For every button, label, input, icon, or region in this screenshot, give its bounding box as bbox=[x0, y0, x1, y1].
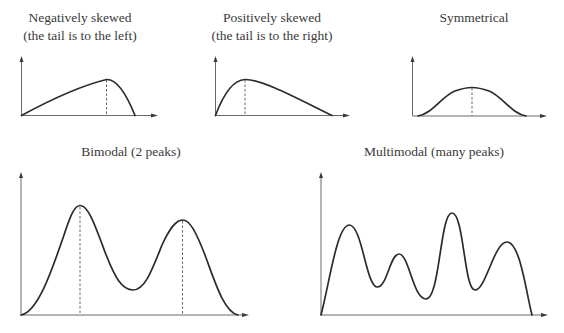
panel-title-line-2: (the tail is to the left) bbox=[23, 28, 137, 43]
panel-positively-skewed: Positively skewed (the tail is to the ri… bbox=[211, 10, 350, 118]
distribution-curve bbox=[21, 205, 238, 315]
distribution-curve bbox=[321, 213, 532, 315]
panel-title-line-2: (the tail is to the right) bbox=[211, 28, 332, 43]
panel-title-line-1: Symmetrical bbox=[440, 10, 509, 25]
panel-bimodal: Bimodal (2 peaks) bbox=[19, 144, 249, 317]
y-axis-arrow-icon bbox=[319, 172, 323, 178]
y-axis-arrow-icon bbox=[19, 172, 23, 178]
panel-multimodal: Multimodal (many peaks) bbox=[319, 144, 548, 317]
panel-symmetrical: Symmetrical bbox=[411, 10, 548, 118]
x-axis-arrow-icon bbox=[540, 114, 547, 118]
panel-negatively-skewed: Negatively skewed (the tail is to the le… bbox=[20, 10, 159, 118]
distribution-shapes-figure: Negatively skewed (the tail is to the le… bbox=[0, 0, 564, 333]
x-axis-arrow-icon bbox=[343, 114, 350, 118]
distribution-curve bbox=[216, 79, 333, 115]
panel-title-line-1: Positively skewed bbox=[223, 10, 321, 25]
panel-title: Bimodal (2 peaks) bbox=[81, 144, 181, 159]
y-axis-arrow-icon bbox=[411, 56, 415, 62]
x-axis-arrow-icon bbox=[541, 313, 548, 317]
panel-title-line-1: Negatively skewed bbox=[28, 10, 131, 25]
x-axis-arrow-icon bbox=[242, 313, 249, 317]
y-axis-arrow-icon bbox=[214, 56, 218, 62]
x-axis-arrow-icon bbox=[151, 114, 158, 118]
panel-title: Multimodal (many peaks) bbox=[364, 144, 504, 159]
y-axis-arrow-icon bbox=[20, 56, 24, 62]
distribution-curve bbox=[22, 79, 136, 115]
